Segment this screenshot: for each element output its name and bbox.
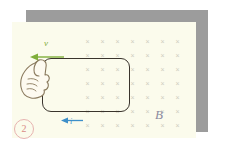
field-x-mark: × (159, 94, 166, 101)
field-x-mark: × (159, 122, 166, 129)
field-x-mark: × (99, 38, 106, 45)
field-x-mark: × (129, 80, 136, 87)
field-x-mark: × (114, 122, 121, 129)
field-x-mark: × (174, 94, 181, 101)
velocity-arrow-icon (30, 48, 64, 58)
field-x-mark: × (174, 80, 181, 87)
field-x-mark: × (144, 52, 151, 59)
hand-gripping-loop-icon (19, 55, 55, 105)
field-x-mark: × (159, 66, 166, 73)
field-x-mark: × (114, 38, 121, 45)
field-x-mark: × (129, 122, 136, 129)
field-x-mark: × (129, 108, 136, 115)
field-x-mark: × (159, 52, 166, 59)
field-x-mark: × (129, 52, 136, 59)
field-x-mark: × (144, 94, 151, 101)
field-x-mark: × (129, 66, 136, 73)
field-x-mark: × (174, 38, 181, 45)
field-x-mark: × (174, 108, 181, 115)
field-x-mark: × (144, 122, 151, 129)
field-x-mark: × (129, 38, 136, 45)
field-x-mark: × (144, 108, 151, 115)
conducting-loop (42, 58, 130, 112)
field-x-mark: × (159, 80, 166, 87)
field-x-mark: × (144, 80, 151, 87)
field-x-mark: × (159, 38, 166, 45)
magnetic-field-label: B (155, 107, 163, 123)
field-x-mark: × (99, 122, 106, 129)
field-x-mark: × (144, 38, 151, 45)
figure-canvas: ××××××××××××××××××××××××××××××××××××××××… (0, 0, 227, 150)
current-label: i (70, 117, 72, 126)
field-x-mark: × (129, 94, 136, 101)
velocity-label: v (44, 38, 48, 48)
field-x-mark: × (174, 52, 181, 59)
field-x-mark: × (174, 66, 181, 73)
field-x-mark: × (84, 38, 91, 45)
field-x-mark: × (84, 122, 91, 129)
field-x-mark: × (144, 66, 151, 73)
figure-number-badge: 2 (14, 119, 34, 139)
field-x-mark: × (174, 122, 181, 129)
